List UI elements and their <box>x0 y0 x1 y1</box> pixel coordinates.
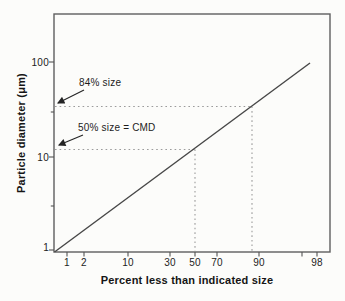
x-tick-label-50: 50 <box>189 257 201 268</box>
x-tick-label-30: 30 <box>164 257 176 268</box>
annotation-50-percent-size-cmd: 50% size = CMD <box>78 122 156 134</box>
annotation-arrow-84-percent <box>58 90 84 103</box>
x-tick-label-90: 90 <box>253 257 265 268</box>
x-axis-title: Percent less than indicated size <box>101 274 274 286</box>
y-axis-title: Particle diameter (μm) <box>15 73 27 193</box>
distribution-line <box>55 63 311 252</box>
plot-canvas <box>0 0 345 301</box>
x-tick-label-98: 98 <box>311 257 323 268</box>
log-probability-chart: Percent less than indicated size Particl… <box>0 0 345 301</box>
x-tick-label-2: 2 <box>81 257 87 268</box>
x-tick-label-70: 70 <box>211 257 223 268</box>
x-tick-label-1: 1 <box>64 257 70 268</box>
annotation-arrow-50-percent <box>59 135 83 145</box>
x-tick-label-10: 10 <box>122 257 134 268</box>
annotation-84-percent-size: 84% size <box>79 77 121 89</box>
y-tick-label-1: 1 <box>43 242 49 253</box>
y-tick-label-100: 100 <box>31 57 49 68</box>
y-tick-label-10: 10 <box>37 152 49 163</box>
